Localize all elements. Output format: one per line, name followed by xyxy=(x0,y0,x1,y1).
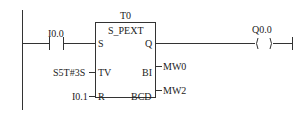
bi-output-operand: MW0 xyxy=(163,62,186,72)
time-value-operand: S5T#3S xyxy=(53,68,85,78)
coil-address: Q0.0 xyxy=(252,25,272,35)
timer-function: S_PEXT xyxy=(108,26,144,36)
ladder-diagram xyxy=(0,0,306,118)
reset-input-operand: I0.1 xyxy=(72,92,88,102)
coil-right-arc xyxy=(270,38,272,49)
pin-bi: BI xyxy=(142,68,152,78)
pin-tv: TV xyxy=(98,68,111,78)
pin-q: Q xyxy=(145,39,152,49)
pin-r: R xyxy=(98,92,105,102)
pin-s: S xyxy=(98,39,104,49)
bcd-output-operand: MW2 xyxy=(163,86,186,96)
pin-bcd: BCD xyxy=(131,92,152,102)
contact-address: I0.0 xyxy=(48,29,64,39)
timer-name: T0 xyxy=(120,11,131,21)
coil-left-arc xyxy=(257,38,259,49)
